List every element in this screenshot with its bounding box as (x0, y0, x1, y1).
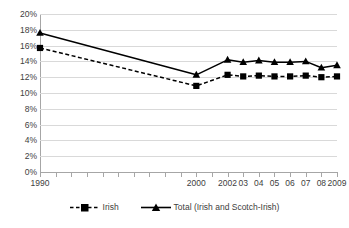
x-axis-tickmark (290, 173, 291, 177)
x-axis-tickmark (56, 173, 57, 177)
x-axis-tickmark (103, 173, 104, 177)
series-line (40, 48, 337, 86)
legend-marker-triangle-solid-icon (141, 202, 171, 213)
series-line (40, 33, 337, 75)
data-point-square (193, 83, 199, 89)
x-axis-tickmark (212, 173, 213, 177)
series-layer (40, 14, 337, 172)
data-point-triangle (255, 57, 263, 64)
x-axis-tickmark (149, 173, 150, 177)
y-axis-labels: 0%2%4%6%8%10%12%14%16%18%20% (0, 14, 37, 172)
x-axis-tick-label: 04 (254, 178, 263, 188)
legend-item-irish: Irish (70, 202, 119, 213)
x-axis-tick-label: 05 (270, 178, 279, 188)
x-axis-tickmark (181, 173, 182, 177)
legend-label-irish: Irish (103, 203, 119, 212)
x-axis-tickmark (40, 173, 41, 177)
x-axis-tickmark (321, 173, 322, 177)
x-axis-tickmark (196, 173, 197, 177)
x-axis-tick-label: 06 (285, 178, 294, 188)
x-axis-tickmark (118, 173, 119, 177)
x-axis-tickmark (337, 173, 338, 177)
data-point-square (334, 73, 340, 79)
data-point-square (287, 73, 293, 79)
chart-legend: Irish Total (Irish and Scotch-Irish) (0, 196, 349, 218)
x-axis-tickmark (274, 173, 275, 177)
data-point-triangle (36, 29, 44, 36)
x-axis-tickmark (71, 173, 72, 177)
x-axis-tickmark (165, 173, 166, 177)
y-axis-tick-label: 18% (3, 26, 37, 35)
x-axis-tickmark (228, 173, 229, 177)
y-axis-tick-label: 6% (3, 120, 37, 129)
y-axis-tick-label: 16% (3, 41, 37, 50)
data-point-triangle (224, 56, 232, 63)
y-axis-tick-label: 10% (3, 89, 37, 98)
x-axis-tickmark (306, 173, 307, 177)
x-axis-tick-label: 03 (238, 178, 247, 188)
data-point-square (224, 72, 230, 78)
x-axis-tickmark (243, 173, 244, 177)
y-axis-tick-label: 12% (3, 73, 37, 82)
data-point-square (256, 73, 262, 79)
data-point-square (37, 45, 43, 51)
y-axis-tick-label: 14% (3, 57, 37, 66)
data-point-square (318, 74, 324, 80)
y-axis-tick-label: 2% (3, 152, 37, 161)
y-axis-tick-label: 0% (3, 168, 37, 177)
x-axis-labels: 1990200020020304050607082009 (40, 178, 338, 192)
data-point-triangle (333, 61, 341, 68)
plot-area (40, 14, 337, 172)
legend-label-total: Total (Irish and Scotch-Irish) (174, 203, 280, 212)
data-point-square (303, 73, 309, 79)
x-axis-tick-label: 2009 (328, 178, 347, 188)
x-axis-tickmark (87, 173, 88, 177)
x-axis-tick-label: 1990 (31, 178, 50, 188)
x-axis-tickmark (134, 173, 135, 177)
x-axis-tick-label: 2002 (218, 178, 237, 188)
legend-item-total: Total (Irish and Scotch-Irish) (141, 202, 280, 213)
data-point-square (240, 73, 246, 79)
x-axis-tick-label: 2000 (187, 178, 206, 188)
x-axis-tick-label: 07 (301, 178, 310, 188)
x-axis-tick-label: 08 (317, 178, 326, 188)
y-axis-tick-label: 20% (3, 10, 37, 19)
x-axis-tickmark (259, 173, 260, 177)
y-axis-tick-label: 4% (3, 136, 37, 145)
y-axis-tick-label: 8% (3, 105, 37, 114)
data-point-square (271, 73, 277, 79)
line-chart: 0%2%4%6%8%10%12%14%16%18%20% 19902000200… (0, 0, 349, 228)
legend-marker-square-dashed-icon (70, 202, 100, 213)
